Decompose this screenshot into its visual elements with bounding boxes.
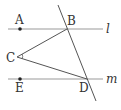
label-b: B bbox=[67, 14, 76, 28]
geometry-diagram: A B C D E l m bbox=[0, 0, 121, 110]
label-line-l: l bbox=[106, 22, 110, 36]
segment-cd bbox=[17, 57, 87, 79]
segment-bc bbox=[17, 29, 67, 57]
label-a: A bbox=[14, 13, 24, 27]
angle-c-arc bbox=[22, 54, 23, 59]
label-c: C bbox=[6, 51, 15, 65]
transversal bbox=[58, 5, 96, 101]
label-d: D bbox=[79, 81, 89, 95]
label-e: E bbox=[15, 81, 24, 95]
point-a bbox=[18, 27, 22, 31]
label-line-m: m bbox=[106, 72, 117, 86]
